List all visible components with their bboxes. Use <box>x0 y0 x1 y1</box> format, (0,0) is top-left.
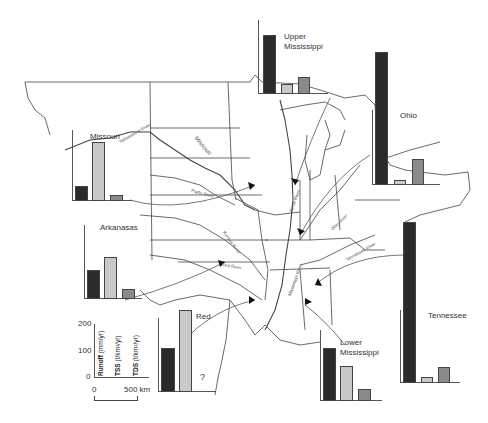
bar-tss <box>394 180 406 185</box>
bar-runoff <box>403 222 416 383</box>
bar-tds <box>298 77 310 94</box>
chart-tennessee: Tennessee <box>400 220 460 383</box>
bar-runoff <box>263 35 276 94</box>
chart-title: Missouri <box>90 132 120 142</box>
chart-ohio: Ohio <box>372 50 440 185</box>
chart-title: Tennessee <box>428 311 467 321</box>
chart-missouri: Missouri <box>72 130 132 201</box>
scale-bar <box>94 396 138 401</box>
chart-title-line1: Lower <box>340 338 362 348</box>
legend-tds: TDS (t/km²/yr) <box>132 335 139 376</box>
chart-lower-mississippi: Lower Mississippi <box>320 330 382 401</box>
bar-tss <box>281 84 293 94</box>
bar-tds <box>110 195 123 201</box>
bar-tds <box>438 367 450 383</box>
legend-tick-200: 200 <box>78 319 91 328</box>
scale-bar-start: 0 <box>92 385 96 394</box>
legend-tick-0: 0 <box>86 372 90 381</box>
chart-title-line2: Mississippi <box>284 42 323 52</box>
legend-runoff: Runoff (mm/yr) <box>97 331 104 376</box>
unknown-tds-marker: ? <box>200 372 205 382</box>
bar-tds <box>358 389 371 401</box>
bar-tss <box>340 366 353 401</box>
bar-runoff <box>161 348 175 392</box>
chart-title-line2: Mississippi <box>340 348 379 358</box>
chart-arkansas: Arkanasas <box>84 225 142 299</box>
legend-tss: TSS (t/km²/yr) <box>114 336 121 376</box>
chart-title: Ohio <box>400 111 417 121</box>
scale-bar-end: 500 km <box>124 385 150 394</box>
bar-runoff <box>323 348 336 401</box>
bar-tss <box>104 257 117 299</box>
bar-runoff <box>87 270 100 299</box>
bar-runoff <box>75 186 88 201</box>
legend-scale: Runoff (mm/yr) TSS (t/km²/yr) TDS (t/km²… <box>94 324 149 378</box>
bar-tss <box>421 377 433 383</box>
bar-tds <box>412 159 424 185</box>
chart-upper-mississippi: Upper Mississippi <box>258 20 328 94</box>
bar-tss <box>92 142 105 201</box>
bar-tss <box>179 310 192 392</box>
chart-title: Red <box>196 312 211 322</box>
bar-tds <box>122 289 135 299</box>
bar-runoff <box>375 52 388 185</box>
legend-tick-100: 100 <box>78 346 91 355</box>
chart-title-line1: Upper <box>284 32 306 42</box>
chart-red: Red ? <box>158 308 216 392</box>
chart-title: Arkanasas <box>100 223 138 233</box>
